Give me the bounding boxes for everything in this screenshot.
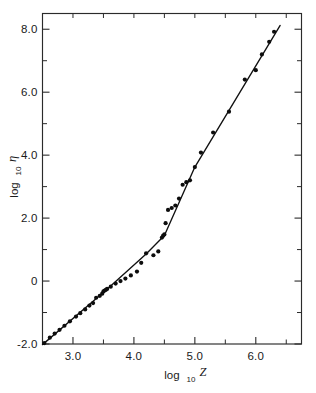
y-axis-title-variable: η: [5, 156, 19, 162]
data-point: [243, 78, 247, 82]
data-point: [139, 261, 143, 265]
data-point: [227, 110, 231, 114]
data-point: [199, 151, 203, 155]
data-point: [166, 208, 170, 212]
y-tick-label: -2.0: [17, 338, 38, 350]
data-point: [94, 296, 98, 300]
data-point: [211, 130, 215, 134]
x-tick-label: 5.0: [187, 350, 204, 362]
data-point: [53, 332, 57, 336]
y-tick-label: 0: [31, 275, 38, 287]
data-point: [68, 319, 72, 323]
y-tick-label: 8.0: [21, 23, 38, 35]
data-point: [184, 180, 188, 184]
y-tick-label: 2.0: [21, 212, 38, 224]
data-point: [129, 273, 133, 277]
data-point: [91, 301, 95, 305]
x-axis-title-base: log: [164, 369, 179, 381]
viscosity-vs-molecular-weight-chart: -2.002.04.06.08.0 3.04.05.06.0 log 10 Z …: [0, 0, 316, 393]
data-point: [267, 40, 271, 44]
data-point: [57, 328, 61, 332]
data-point: [156, 249, 160, 253]
data-point: [164, 221, 168, 225]
y-axis-title-subscript: 10: [14, 166, 23, 175]
data-point: [42, 341, 46, 345]
data-point: [123, 276, 127, 280]
figure-container: -2.002.04.06.08.0 3.04.05.06.0 log 10 Z …: [0, 0, 316, 393]
data-point: [105, 287, 109, 291]
data-point: [181, 183, 185, 187]
data-point: [177, 196, 181, 200]
data-point: [62, 324, 66, 328]
data-point: [151, 253, 155, 257]
y-tick-label: 4.0: [21, 149, 38, 161]
data-point: [170, 206, 174, 210]
x-tick-label: 6.0: [247, 350, 264, 362]
x-tick-label: 3.0: [65, 350, 82, 362]
chart-background: [0, 0, 316, 393]
data-point: [78, 311, 82, 315]
x-axis-title-variable: Z: [200, 365, 208, 379]
data-point: [254, 68, 258, 72]
data-point: [74, 315, 78, 319]
data-point: [162, 232, 166, 236]
y-tick-label: 6.0: [21, 86, 38, 98]
data-point: [193, 165, 197, 169]
data-point: [87, 304, 91, 308]
x-axis-title-subscript: 10: [187, 375, 196, 384]
data-point: [83, 307, 87, 311]
data-point: [144, 251, 148, 255]
data-point: [135, 270, 139, 274]
data-point: [173, 203, 177, 207]
data-point: [118, 279, 122, 283]
data-point: [109, 285, 113, 289]
y-axis-title-base: log: [8, 182, 20, 197]
data-point: [260, 52, 264, 56]
data-point: [114, 281, 118, 285]
data-point: [272, 30, 276, 34]
data-point: [48, 336, 52, 340]
x-tick-label: 4.0: [126, 350, 143, 362]
data-point: [188, 178, 192, 182]
